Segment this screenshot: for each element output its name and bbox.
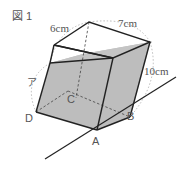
label-10cm: 10cm <box>144 65 169 77</box>
label-6cm: 6cm <box>50 22 69 34</box>
label-a: ア <box>27 77 37 88</box>
label-7cm: 7cm <box>118 17 137 29</box>
vertex-d: D <box>25 112 33 124</box>
tilted-box-diagram: 図 1 6cm 7cm 10cm ア C D A B <box>0 0 192 175</box>
vertex-a: A <box>92 135 100 147</box>
vertex-b: B <box>127 110 134 122</box>
figure-title: 図 1 <box>12 10 32 22</box>
vertex-c: C <box>67 93 75 105</box>
